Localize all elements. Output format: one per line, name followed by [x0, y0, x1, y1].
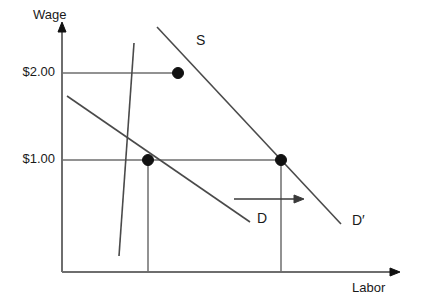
supply-curve: [119, 43, 134, 256]
price-guide-lines: [62, 73, 281, 160]
supply-demand-figure: Wage Labor $2.00 $1.00 S D D′: [0, 0, 424, 306]
x-axis-arrowhead: [390, 268, 400, 276]
equilibrium-dot-high-wage: [173, 68, 184, 79]
figure-canvas: [0, 0, 424, 306]
demand-curve-label: D: [257, 211, 267, 225]
y-tick-label-1-00: $1.00: [7, 152, 55, 165]
x-axis-title: Labor: [352, 281, 385, 294]
supply-curve-label: S: [196, 33, 205, 47]
axes-group: [58, 22, 400, 276]
demand-curve-original: [67, 96, 250, 222]
equilibrium-dot-new-quantity: [276, 155, 287, 166]
equilibrium-dot-original: [143, 155, 154, 166]
demand-shifted-curve-label: D′: [352, 213, 365, 227]
y-tick-label-2-00: $2.00: [7, 65, 55, 78]
y-axis-title: Wage: [33, 8, 66, 21]
equilibrium-dots: [143, 68, 287, 166]
y-axis-arrowhead: [58, 22, 66, 32]
demand-curve-shifted: [157, 27, 341, 224]
demand-shift-arrow: [234, 195, 304, 203]
shift-arrow-head: [294, 195, 304, 203]
